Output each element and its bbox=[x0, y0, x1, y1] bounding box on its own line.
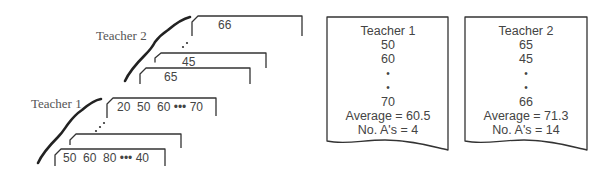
card-outline-t2-back bbox=[192, 16, 302, 36]
card-t2-back-value: 66 bbox=[218, 19, 231, 31]
stack-label-teacher-2: Teacher 2 bbox=[96, 29, 147, 42]
card-outline-t2-second bbox=[155, 53, 266, 68]
card-t1-back-value: 20 50 60 ••• 70 bbox=[117, 101, 203, 113]
stack-label-teacher-1: Teacher 1 bbox=[31, 97, 82, 110]
report-2-line-2: 45 bbox=[465, 52, 587, 66]
stack-dots-t1-b bbox=[99, 126, 101, 128]
report-1-count-as: No. A's = 4 bbox=[327, 123, 449, 137]
report-2-dot-1: • bbox=[465, 67, 587, 81]
card-outline-t1-second bbox=[70, 134, 181, 148]
report-2-average: Average = 71.3 bbox=[465, 109, 587, 123]
report-2-line-last: 66 bbox=[465, 95, 587, 109]
report-1-dot-2: • bbox=[327, 81, 449, 95]
report-2-count-as: No. A's = 14 bbox=[465, 123, 587, 137]
report-2-dot-2: • bbox=[465, 81, 587, 95]
stack-dots-t2-b bbox=[186, 42, 188, 44]
report-1-average: Average = 60.5 bbox=[327, 109, 449, 123]
diagram-canvas: Teacher 2 Teacher 1 66 45 65 20 50 60 ••… bbox=[0, 0, 613, 173]
stack-dots-t2-a bbox=[182, 46, 184, 48]
report-1-line-2: 60 bbox=[327, 52, 449, 66]
report-2-title: Teacher 2 bbox=[465, 24, 587, 38]
report-teacher-1: Teacher 1 50 60 • • 70 Average = 60.5 No… bbox=[327, 24, 449, 138]
stack-dots-t1-a bbox=[95, 130, 97, 132]
report-teacher-2: Teacher 2 65 45 • • 66 Average = 71.3 No… bbox=[465, 24, 587, 138]
card-t2-second-value: 45 bbox=[182, 56, 195, 68]
report-1-line-last: 70 bbox=[327, 95, 449, 109]
report-2-line-1: 65 bbox=[465, 38, 587, 52]
brace-teacher-2 bbox=[125, 17, 190, 81]
card-outline-t2-front bbox=[140, 68, 250, 84]
stack-dots-t1-c bbox=[103, 122, 105, 124]
report-1-dot-1: • bbox=[327, 67, 449, 81]
card-t1-front-value: 50 60 80 ••• 40 bbox=[63, 152, 149, 164]
report-1-line-1: 50 bbox=[327, 38, 449, 52]
report-1-title: Teacher 1 bbox=[327, 24, 449, 38]
card-t2-front-value: 65 bbox=[164, 71, 177, 83]
